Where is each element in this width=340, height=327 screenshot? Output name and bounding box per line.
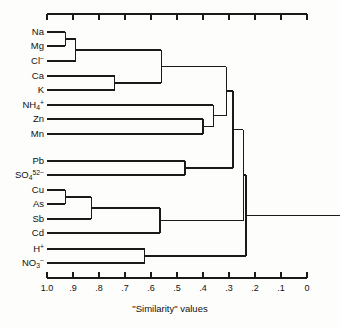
leaf-label-no3: NO3− bbox=[22, 258, 44, 270]
x-tick-label-4: .6 bbox=[137, 283, 165, 293]
x-tick-label-5: .5 bbox=[163, 283, 191, 293]
x-tick-label-8: .2 bbox=[241, 283, 269, 293]
leaf-label-zn: Zn bbox=[33, 114, 44, 124]
leaf-label-cl: Cl− bbox=[31, 56, 44, 66]
leaf-label-h: H+ bbox=[33, 244, 44, 254]
leaf-label-pb: Pb bbox=[32, 156, 44, 166]
x-tick-label-7: .3 bbox=[215, 283, 243, 293]
leaf-label-sb: Sb bbox=[32, 214, 44, 224]
x-tick-label-6: .4 bbox=[189, 283, 217, 293]
leaf-label-ca: Ca bbox=[32, 71, 44, 81]
dendrogram-canvas bbox=[0, 0, 340, 327]
x-tick-label-2: .8 bbox=[85, 283, 113, 293]
leaf-label-as: As bbox=[33, 199, 44, 209]
leaf-label-na: Na bbox=[32, 27, 44, 37]
x-tick-label-1: .9 bbox=[59, 283, 87, 293]
leaf-label-mg: Mg bbox=[31, 41, 44, 51]
leaf-label-nh4: NH4+ bbox=[23, 100, 45, 112]
leaf-label-k: K bbox=[38, 85, 44, 95]
x-tick-label-0: 1.0 bbox=[33, 283, 61, 293]
x-tick-label-3: .7 bbox=[111, 283, 139, 293]
leaf-label-cu: Cu bbox=[32, 185, 44, 195]
x-tick-label-10: 0 bbox=[293, 283, 321, 293]
leaf-label-so4: SO452− bbox=[15, 170, 44, 182]
axis-title: "Similarity" values bbox=[0, 303, 340, 314]
leaf-label-cd: Cd bbox=[32, 228, 44, 238]
leaf-label-mn: Mn bbox=[31, 129, 44, 139]
x-tick-label-9: .1 bbox=[267, 283, 295, 293]
